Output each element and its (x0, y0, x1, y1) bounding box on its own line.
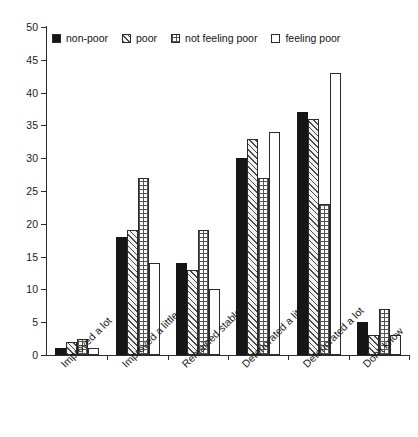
x-axis-tick (168, 356, 169, 360)
bar (88, 348, 99, 355)
bar (127, 230, 138, 355)
bar (258, 178, 269, 355)
bar (176, 263, 187, 355)
x-axis-tick (107, 356, 108, 360)
bar (236, 158, 247, 355)
bar (357, 322, 368, 355)
y-axis-tick (41, 289, 46, 290)
y-axis-tick (41, 257, 46, 258)
bar (247, 139, 258, 355)
bar-group (236, 27, 280, 355)
y-axis-tick (41, 125, 46, 126)
y-axis-tick-label: 15 (0, 252, 38, 262)
y-axis-tick-label: 50 (0, 22, 38, 32)
bar-group (176, 27, 220, 355)
x-axis-tick (349, 356, 350, 360)
x-axis-tick (409, 356, 410, 360)
y-axis-tick-label: 5 (0, 317, 38, 327)
bar (138, 178, 149, 355)
y-axis-tick (41, 60, 46, 61)
y-axis-tick (41, 27, 46, 28)
y-axis-tick (41, 224, 46, 225)
y-axis-tick (41, 355, 46, 356)
bar-group (357, 27, 401, 355)
y-axis-tick-label: 35 (0, 120, 38, 130)
bar (330, 73, 341, 355)
y-axis-tick (41, 158, 46, 159)
y-axis-tick-label: 45 (0, 55, 38, 65)
y-axis-tick-label: 30 (0, 153, 38, 163)
y-axis-tick-label: 0 (0, 350, 38, 360)
y-axis-tick-label: 40 (0, 88, 38, 98)
bar (308, 119, 319, 355)
bar (116, 237, 127, 355)
bar-group (116, 27, 160, 355)
y-axis-tick-label: 20 (0, 219, 38, 229)
bar (187, 270, 198, 355)
bar-chart: 05101520253035404550 non-poor poor not f… (0, 0, 418, 437)
x-axis-tick (228, 356, 229, 360)
y-axis-tick (41, 322, 46, 323)
y-axis-tick (41, 191, 46, 192)
bar-group (55, 27, 99, 355)
y-axis-tick (41, 93, 46, 94)
x-axis-tick (288, 356, 289, 360)
y-axis-tick-label: 25 (0, 186, 38, 196)
y-axis-tick-label: 10 (0, 284, 38, 294)
